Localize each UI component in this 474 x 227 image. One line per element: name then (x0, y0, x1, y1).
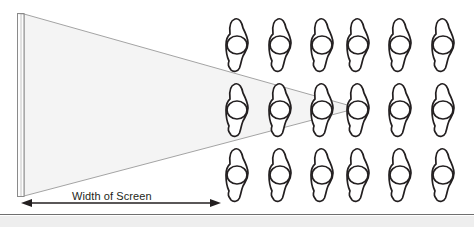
seated-person-head (227, 36, 247, 54)
seat-r1c4 (347, 19, 369, 72)
seat-r3c5 (389, 149, 411, 202)
seated-person-head (390, 166, 410, 184)
seat-r2c5 (389, 84, 411, 137)
seat-r2c6 (432, 84, 454, 137)
seated-person-head (348, 101, 368, 119)
seated-person-head (433, 101, 453, 119)
seated-person-head (312, 36, 332, 54)
seat-r1c5 (389, 19, 411, 72)
seated-person-head (390, 36, 410, 54)
seated-person-head (227, 166, 247, 184)
dimension-arrowhead-left (21, 199, 32, 207)
seated-person-head (227, 101, 247, 119)
projection-screen (18, 14, 25, 197)
screen-top-cap (18, 14, 25, 15)
seat-r1c1 (226, 19, 248, 72)
bottom-band (0, 216, 474, 227)
seated-person-head (433, 36, 453, 54)
seated-person-head (348, 166, 368, 184)
diagram-canvas: Width of Screen (0, 0, 474, 227)
viewing-cone (24, 14, 358, 196)
seat-r2c3 (311, 84, 333, 137)
dimension-arrowhead-right (210, 199, 221, 207)
seated-person-head (433, 166, 453, 184)
seat-r1c6 (432, 19, 454, 72)
seated-person-head (270, 166, 290, 184)
seated-person-head (312, 101, 332, 119)
seat-r1c2 (269, 19, 291, 72)
seat-r3c4 (347, 149, 369, 202)
seat-r3c6 (432, 149, 454, 202)
seat-r1c3 (311, 19, 333, 72)
seat-r2c4 (347, 84, 369, 137)
seated-person-head (270, 101, 290, 119)
seated-person-head (390, 101, 410, 119)
seated-person-head (348, 36, 368, 54)
seat-r3c2 (269, 149, 291, 202)
seated-person-head (270, 36, 290, 54)
seat-r3c3 (311, 149, 333, 202)
seat-r3c1 (226, 149, 248, 202)
width-of-screen-label: Width of Screen (72, 190, 152, 202)
seated-person-head (312, 166, 332, 184)
